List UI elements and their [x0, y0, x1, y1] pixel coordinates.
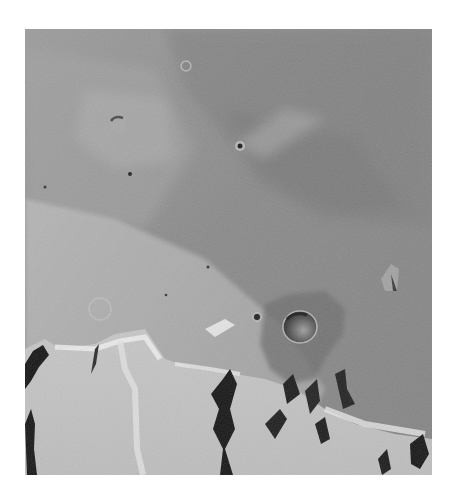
terrain-render	[25, 29, 432, 475]
orbital-photograph	[25, 29, 432, 475]
